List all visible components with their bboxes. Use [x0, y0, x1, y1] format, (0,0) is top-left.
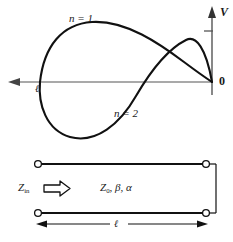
v-axis-label: V: [220, 6, 228, 18]
terminal-top-left: [35, 161, 42, 168]
figure-canvas: [0, 0, 233, 242]
length-arrowhead-left: [36, 221, 47, 228]
input-impedance-label: Zin: [18, 182, 29, 194]
line-parameters-label: Z0, β, α: [100, 182, 132, 194]
length-label: ℓ: [114, 219, 118, 229]
curve-n2: [40, 39, 212, 138]
length-arrowhead-right: [197, 221, 208, 228]
input-impedance-subscript: in: [24, 187, 29, 194]
plot-curves: [40, 22, 212, 139]
curve-label-n1: n = 1: [69, 13, 93, 24]
vertical-axis-arrowhead: [208, 6, 216, 18]
horizontal-axis-arrowhead: [8, 78, 20, 86]
curve-n1: [40, 22, 212, 82]
terminal-top-right: [203, 161, 210, 168]
line-parameters-rest: , β, α: [110, 181, 132, 193]
curve-label-n2: n = 2: [114, 108, 138, 119]
terminal-bottom-left: [35, 210, 42, 217]
zin-block-arrow-icon: [44, 181, 70, 196]
terminal-bottom-right: [203, 210, 210, 217]
origin-label: 0: [219, 75, 225, 87]
plot-ell-label: ℓ: [35, 84, 39, 94]
figure-standing-wave-transmission-line: n = 1 n = 2 V 0 ℓ Zin Z0, β, α ℓ: [0, 0, 233, 242]
